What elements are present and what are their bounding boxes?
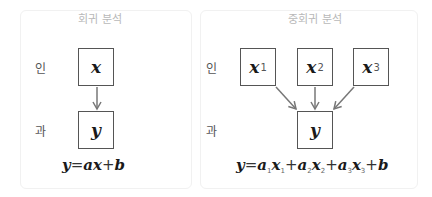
input-box-x: x: [78, 48, 114, 86]
output-box-y: y: [78, 111, 114, 149]
multiple-equation: y=a1x1+a2x2+a3x3+b: [236, 156, 388, 175]
input-box-x3: x3: [353, 48, 389, 86]
effect-label-multi: 과: [206, 122, 217, 139]
multiple-regression-title: 중회귀 분석: [270, 10, 360, 26]
cause-label-multi: 인: [206, 59, 217, 76]
output-box-y-multi: y: [297, 111, 333, 149]
simple-regression-title: 회귀 분석: [60, 10, 140, 26]
effect-label: 과: [35, 122, 46, 139]
arrow-x3-to-y: [334, 87, 354, 109]
var-x: x: [91, 57, 101, 77]
input-box-x2: x2: [297, 48, 333, 86]
input-box-x1: x1: [240, 48, 276, 86]
cause-label: 인: [35, 59, 46, 76]
arrow-x1-to-y: [276, 87, 296, 109]
var-y: y: [91, 120, 101, 140]
simple-equation: y=ax+b: [62, 156, 125, 174]
